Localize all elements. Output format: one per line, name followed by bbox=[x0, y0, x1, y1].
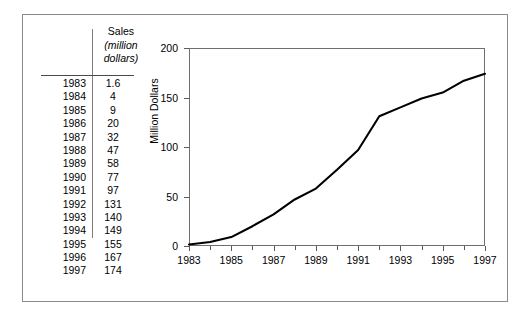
table-row: 19859 bbox=[39, 104, 135, 117]
x-tick-mark-minor bbox=[379, 246, 380, 250]
x-tick-mark-minor bbox=[337, 246, 338, 250]
table-cell-year: 1993 bbox=[39, 211, 86, 224]
table-cell-sales: 1.6 bbox=[92, 77, 134, 90]
x-tick-mark-minor bbox=[252, 246, 253, 250]
table-cell-year: 1995 bbox=[39, 238, 86, 251]
y-tick-label: 50 bbox=[148, 192, 178, 203]
table-row: 199197 bbox=[39, 184, 135, 197]
x-tick-mark bbox=[358, 246, 359, 251]
x-tick-label: 1985 bbox=[211, 255, 251, 266]
table-row: 199077 bbox=[39, 171, 135, 184]
table-row: 1995155 bbox=[39, 238, 135, 251]
table-cell-sales: 167 bbox=[92, 251, 134, 264]
table-cell-year: 1992 bbox=[39, 198, 86, 211]
table-row: 1992131 bbox=[39, 198, 135, 211]
table-cell-sales: 9 bbox=[92, 104, 134, 117]
x-tick-mark bbox=[274, 246, 275, 251]
table-header-row: Sales (million dollars) bbox=[39, 25, 135, 75]
table-cell-sales: 174 bbox=[92, 264, 134, 277]
table-cell-year: 1996 bbox=[39, 251, 86, 264]
x-tick-label: 1997 bbox=[465, 255, 505, 266]
table-cell-year: 1984 bbox=[39, 90, 86, 103]
table-cell-year: 1989 bbox=[39, 157, 86, 170]
table-cell-year: 1983 bbox=[39, 77, 86, 90]
x-tick-label: 1987 bbox=[254, 255, 294, 266]
y-tick-label: 0 bbox=[148, 241, 178, 252]
table-cell-sales: 140 bbox=[92, 211, 134, 224]
table-cell-sales: 155 bbox=[92, 238, 134, 251]
table-cell-sales: 20 bbox=[92, 117, 134, 130]
x-tick-mark bbox=[400, 246, 401, 251]
figure-frame: Sales (million dollars) 19831.6198441985… bbox=[22, 14, 508, 302]
x-tick-label: 1993 bbox=[380, 255, 420, 266]
table-cell-year: 1985 bbox=[39, 104, 86, 117]
x-tick-label: 1991 bbox=[338, 255, 378, 266]
table-cell-sales: 131 bbox=[92, 198, 134, 211]
table-cell-year: 1994 bbox=[39, 224, 86, 237]
table-cell-year: 1990 bbox=[39, 171, 86, 184]
x-tick-mark bbox=[231, 246, 232, 251]
x-tick-mark bbox=[443, 246, 444, 251]
table-row: 198847 bbox=[39, 144, 135, 157]
table-cell-year: 1987 bbox=[39, 131, 86, 144]
table-row: 19844 bbox=[39, 90, 135, 103]
x-tick-mark-minor bbox=[210, 246, 211, 250]
table-cell-sales: 32 bbox=[92, 131, 134, 144]
y-axis-label: Million Dollars bbox=[148, 51, 160, 171]
table-cell-sales: 77 bbox=[92, 171, 134, 184]
x-tick-label: 1989 bbox=[296, 255, 336, 266]
table-cell-sales: 4 bbox=[92, 90, 134, 103]
series-polyline bbox=[189, 74, 485, 245]
table-row: 1993140 bbox=[39, 211, 135, 224]
table-header-underline bbox=[41, 75, 134, 76]
table-cell-year: 1988 bbox=[39, 144, 86, 157]
table-cell-sales: 97 bbox=[92, 184, 134, 197]
table-cell-sales: 58 bbox=[92, 157, 134, 170]
x-tick-label: 1995 bbox=[423, 255, 463, 266]
x-tick-mark bbox=[485, 246, 486, 251]
sales-table: Sales (million dollars) 19831.6198441985… bbox=[39, 25, 135, 75]
table-row: 198732 bbox=[39, 131, 135, 144]
table-cell-year: 1997 bbox=[39, 264, 86, 277]
x-tick-label: 1983 bbox=[169, 255, 209, 266]
table-row: 1994149 bbox=[39, 224, 135, 237]
table-cell-year: 1986 bbox=[39, 117, 86, 130]
table-row: 1996167 bbox=[39, 251, 135, 264]
y-tick-label: 100 bbox=[148, 142, 178, 153]
x-tick-mark-minor bbox=[295, 246, 296, 250]
y-tick-label: 150 bbox=[148, 93, 178, 104]
table-row: 1997174 bbox=[39, 264, 135, 277]
x-tick-mark bbox=[316, 246, 317, 251]
table-row: 19831.6 bbox=[39, 77, 135, 90]
table-body: 19831.6198441985919862019873219884719895… bbox=[39, 77, 135, 278]
table-cell-sales: 149 bbox=[92, 224, 134, 237]
table-cell-year: 1991 bbox=[39, 184, 86, 197]
x-tick-mark-minor bbox=[422, 246, 423, 250]
x-tick-mark-minor bbox=[464, 246, 465, 250]
table-row: 198620 bbox=[39, 117, 135, 130]
line-chart: Million Dollars 050100150200 19831985198… bbox=[135, 29, 497, 291]
x-tick-mark bbox=[189, 246, 190, 251]
sales-line-series bbox=[189, 48, 485, 246]
y-tick-label: 200 bbox=[148, 43, 178, 54]
table-row: 198958 bbox=[39, 157, 135, 170]
table-cell-sales: 47 bbox=[92, 144, 134, 157]
